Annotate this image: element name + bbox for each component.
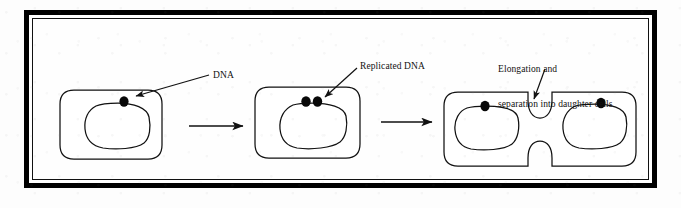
stage-2-replicated-cell bbox=[255, 87, 360, 158]
figure-root: DNA Replicated DNA Elongation and separa… bbox=[0, 0, 681, 208]
dna-origin-dot-stage1 bbox=[119, 96, 128, 106]
nucleoid-stage2 bbox=[280, 103, 347, 149]
label-elongation-line-1: Elongation and bbox=[498, 64, 613, 76]
label-elongation-line-2: separation into daughter cells bbox=[498, 99, 613, 111]
label-dna: DNA bbox=[213, 70, 234, 82]
dna-origin-dot-stage2-b bbox=[313, 96, 322, 107]
stage-1-parent-cell bbox=[60, 90, 162, 159]
leader-line-dna bbox=[136, 75, 209, 96]
nucleoid-stage1 bbox=[85, 103, 150, 149]
dna-origin-dot-stage2-a bbox=[301, 96, 310, 107]
dna-origin-dot-stage3-left bbox=[480, 101, 489, 111]
label-replicated-dna: Replicated DNA bbox=[360, 61, 425, 73]
label-elongation: Elongation and separation into daughter … bbox=[498, 41, 613, 133]
